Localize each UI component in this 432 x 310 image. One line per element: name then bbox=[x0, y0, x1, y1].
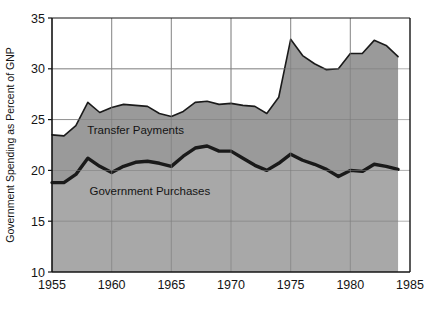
series-label-government-purchases: Government Purchases bbox=[89, 185, 210, 197]
x-axis-tick-label: 1965 bbox=[157, 278, 185, 292]
x-axis-tick-labels: 1955196019651970197519801985 bbox=[38, 278, 424, 292]
y-axis-tick-label: 20 bbox=[31, 164, 45, 178]
x-axis-tick-label: 1975 bbox=[277, 278, 305, 292]
chart-container: 1955196019651970197519801985 10152025303… bbox=[0, 0, 432, 310]
x-axis-tick-label: 1955 bbox=[38, 278, 66, 292]
x-axis-tick-label: 1980 bbox=[336, 278, 364, 292]
y-axis-title: Government Spending as Percent of GNP bbox=[4, 47, 16, 243]
x-axis-tick-label: 1985 bbox=[396, 278, 424, 292]
area-chart: 1955196019651970197519801985 10152025303… bbox=[0, 0, 432, 310]
x-axis-tick-label: 1970 bbox=[217, 278, 245, 292]
y-axis-tick-label: 30 bbox=[31, 62, 45, 76]
y-axis-tick-label: 35 bbox=[31, 12, 45, 26]
x-axis-tick-label: 1960 bbox=[98, 278, 126, 292]
y-axis-tick-label: 25 bbox=[31, 113, 45, 127]
series-label-transfer-payments: Transfer Payments bbox=[87, 124, 184, 136]
y-axis-tick-label: 10 bbox=[31, 266, 45, 280]
y-axis-tick-label: 15 bbox=[31, 215, 45, 229]
y-axis-tick-labels: 101520253035 bbox=[31, 12, 52, 280]
y-axis-title-text: Government Spending as Percent of GNP bbox=[4, 47, 16, 243]
